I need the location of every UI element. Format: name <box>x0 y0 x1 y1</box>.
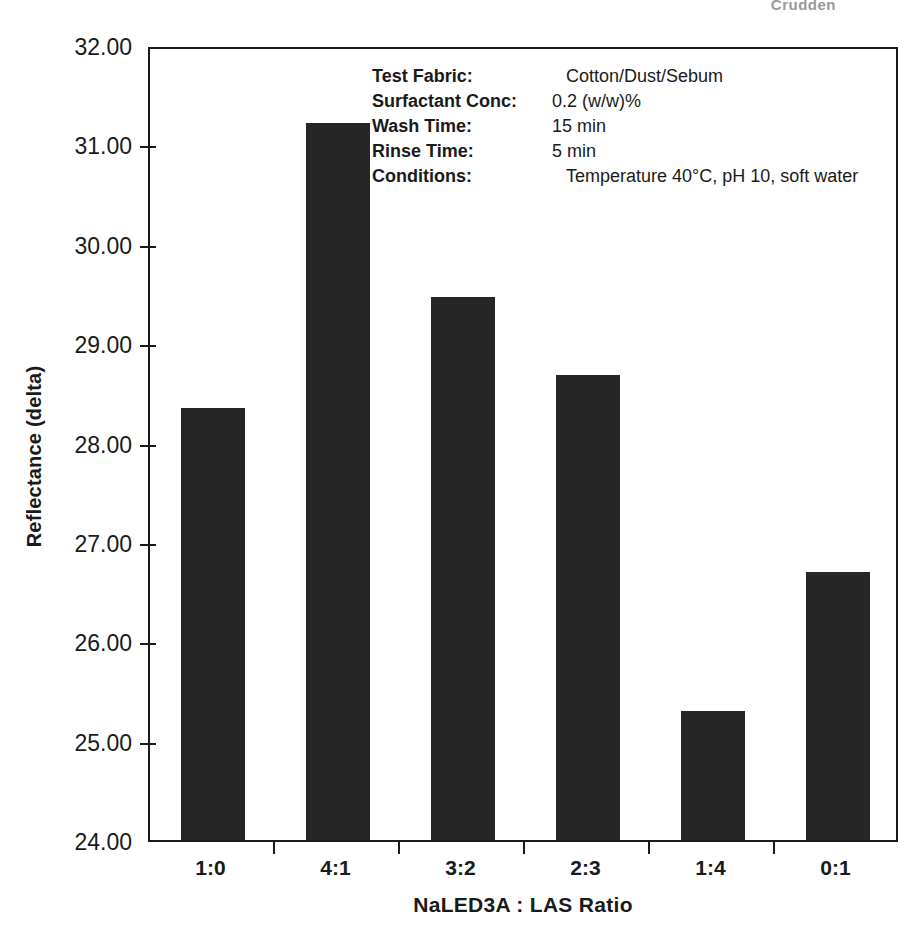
bar[interactable] <box>306 123 370 840</box>
bar[interactable] <box>681 711 745 840</box>
x-tick-mark <box>523 842 525 854</box>
y-tick-mark <box>140 544 156 546</box>
x-tick-label: 2:3 <box>526 856 646 880</box>
x-tick-mark <box>773 842 775 854</box>
annotation-row: Rinse Time:5 min <box>372 139 858 164</box>
x-tick-label: 0:1 <box>776 856 896 880</box>
x-tick-label: 3:2 <box>401 856 521 880</box>
x-tick-mark <box>398 842 400 854</box>
y-tick-label: 26.00 <box>46 630 132 657</box>
x-tick-label: 1:0 <box>151 856 271 880</box>
annotation-row: Wash Time:15 min <box>372 114 858 139</box>
bar-slot <box>150 49 275 840</box>
annotation-key: Wash Time: <box>372 114 552 139</box>
y-tick-mark <box>140 743 156 745</box>
x-tick-mark <box>273 842 275 854</box>
y-tick-mark <box>140 445 156 447</box>
annotation-row: Test Fabric:Cotton/Dust/Sebum <box>372 64 858 89</box>
y-tick-label: 27.00 <box>46 530 132 557</box>
y-tick-label: 30.00 <box>46 232 132 259</box>
bar[interactable] <box>806 572 870 840</box>
y-axis-labels: 32.0031.0030.0029.0028.0027.0026.0025.00… <box>0 0 132 937</box>
bar[interactable] <box>431 297 495 840</box>
x-tick-label: 4:1 <box>276 856 396 880</box>
annotation-value: 15 min <box>552 114 606 139</box>
y-tick-label: 28.00 <box>46 431 132 458</box>
annotation-row: Conditions:Temperature 40°C, pH 10, soft… <box>372 164 858 189</box>
y-tick-label: 31.00 <box>46 133 132 160</box>
annotation-key: Conditions: <box>372 164 552 189</box>
bar[interactable] <box>181 408 245 840</box>
annotation-value: 5 min <box>552 139 596 164</box>
annotation-key: Surfactant Conc: <box>372 89 552 114</box>
y-tick-label: 32.00 <box>46 34 132 61</box>
y-tick-label: 24.00 <box>46 829 132 856</box>
y-tick-label: 29.00 <box>46 332 132 359</box>
annotation-row: Surfactant Conc:0.2 (w/w)% <box>372 89 858 114</box>
x-tick-mark <box>648 842 650 854</box>
bar-chart: Reflectance (delta) 32.0031.0030.0029.00… <box>0 0 924 937</box>
conditions-annotation: Test Fabric:Cotton/Dust/SebumSurfactant … <box>372 64 858 189</box>
x-tick-label: 1:4 <box>651 856 771 880</box>
y-tick-mark <box>140 246 156 248</box>
annotation-value: 0.2 (w/w)% <box>552 89 641 114</box>
annotation-value: Cotton/Dust/Sebum <box>552 64 723 89</box>
y-tick-mark <box>140 146 156 148</box>
y-tick-mark <box>140 643 156 645</box>
annotation-key: Test Fabric: <box>372 64 552 89</box>
bar[interactable] <box>556 375 620 840</box>
annotation-key: Rinse Time: <box>372 139 552 164</box>
y-tick-mark <box>140 345 156 347</box>
annotation-value: Temperature 40°C, pH 10, soft water <box>552 164 858 189</box>
y-tick-label: 25.00 <box>46 729 132 756</box>
x-axis-title: NaLED3A : LAS Ratio <box>148 893 898 917</box>
